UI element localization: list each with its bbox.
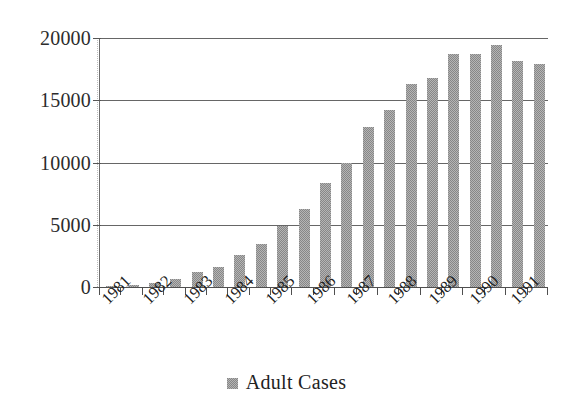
y-axis-label-15000: 15000 [40,90,91,110]
x-tick [462,288,463,295]
bar [384,110,395,287]
legend-entry-adult-cases: Adult Cases [227,372,347,392]
y-axis-label-10000: 10000 [40,153,91,173]
bar [406,84,417,287]
bar [491,45,502,287]
legend: Adult Cases [0,372,573,392]
bar [470,54,481,287]
x-tick [420,288,421,295]
bars-group [100,38,548,287]
x-tick [547,288,548,295]
plot-area: 05000100001500020000 [99,38,548,287]
x-tick [377,288,378,295]
y-axis-label-5000: 5000 [50,215,91,235]
bar-chart: 05000100001500020000 1981198219831984198… [0,0,573,412]
bar [512,61,523,287]
bar [299,209,310,287]
bar [427,78,438,287]
legend-label: Adult Cases [246,372,347,392]
x-axis-labels: 1981198219831984198519861987198819891990… [0,0,573,70]
bar [363,127,374,287]
legend-swatch-icon [227,378,238,389]
bar [341,163,352,288]
bar [448,54,459,287]
y-axis-label-0: 0 [81,277,91,297]
bar [256,244,267,287]
bar [534,64,545,287]
